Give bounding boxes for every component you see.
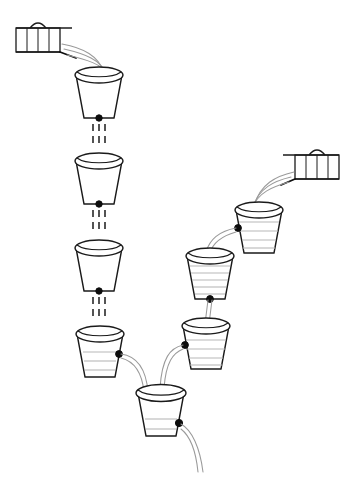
- bucket-6[interactable]: [235, 202, 283, 253]
- flow-bucket-5-outlet: [181, 424, 203, 472]
- bucket-2[interactable]: [75, 153, 123, 207]
- tap-right[interactable]: [281, 150, 339, 185]
- bucket-8[interactable]: [182, 318, 230, 369]
- bucket-1-spout-dot[interactable]: [96, 115, 102, 121]
- diagram-canvas: [0, 0, 355, 482]
- bucket-2-spout-dot[interactable]: [96, 201, 102, 207]
- tap-top-left-handle-icon[interactable]: [30, 23, 46, 28]
- tap-top-left[interactable]: [16, 23, 76, 58]
- bucket-5[interactable]: [136, 385, 186, 437]
- flow-bucket-3-to-bucket-4-drips: [93, 297, 105, 316]
- bucket-3-spout-dot[interactable]: [96, 288, 102, 294]
- flow-bucket-1-to-bucket-2-drips: [93, 124, 105, 143]
- bucket-7[interactable]: [186, 248, 234, 302]
- tap-right-handle-icon[interactable]: [309, 150, 325, 155]
- flow-bucket-2-to-bucket-3-drips: [93, 210, 105, 229]
- bucket-cascade-diagram: [0, 0, 355, 482]
- bucket-4[interactable]: [76, 326, 124, 377]
- bucket-1[interactable]: [75, 67, 123, 121]
- bucket-3[interactable]: [75, 240, 123, 294]
- bucket-5-spout-dot[interactable]: [175, 419, 182, 426]
- flow-bucket-8-to-bucket-5: [160, 345, 183, 388]
